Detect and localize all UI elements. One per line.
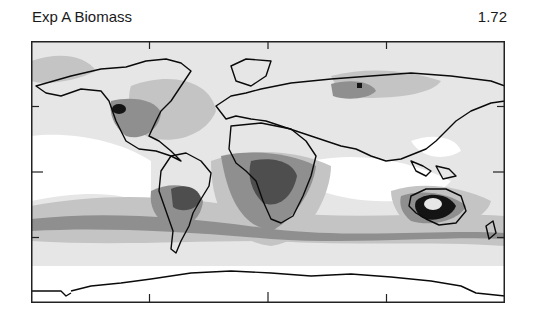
biomass-map: [31, 41, 505, 303]
map-title: Exp A Biomass: [32, 8, 132, 25]
biomass-map-svg: [31, 41, 505, 303]
australia-center-light: [424, 198, 442, 210]
map-value-label: 1.72: [478, 8, 507, 25]
